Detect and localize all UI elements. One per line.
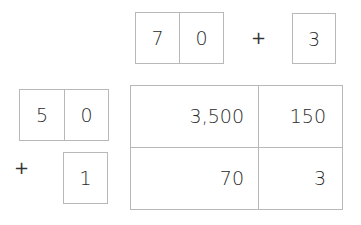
left-digit-ones: 0 (64, 89, 109, 141)
grid-cell-r1-c1: 3 (259, 148, 342, 210)
top-addend: 3 (292, 13, 336, 64)
left-plus-sign: + (14, 159, 29, 177)
top-digit-ones: 0 (179, 12, 224, 64)
area-model-grid: 3,500 150 70 3 (130, 85, 343, 210)
top-plus-sign: + (251, 29, 266, 47)
grid-cell-r1-c0: 70 (131, 148, 259, 210)
left-addend: 1 (63, 152, 108, 204)
top-digit-tens: 7 (135, 12, 180, 64)
left-digit-tens: 5 (19, 89, 65, 141)
grid-cell-r0-c0: 3,500 (131, 86, 259, 148)
grid-cell-r0-c1: 150 (259, 86, 342, 148)
